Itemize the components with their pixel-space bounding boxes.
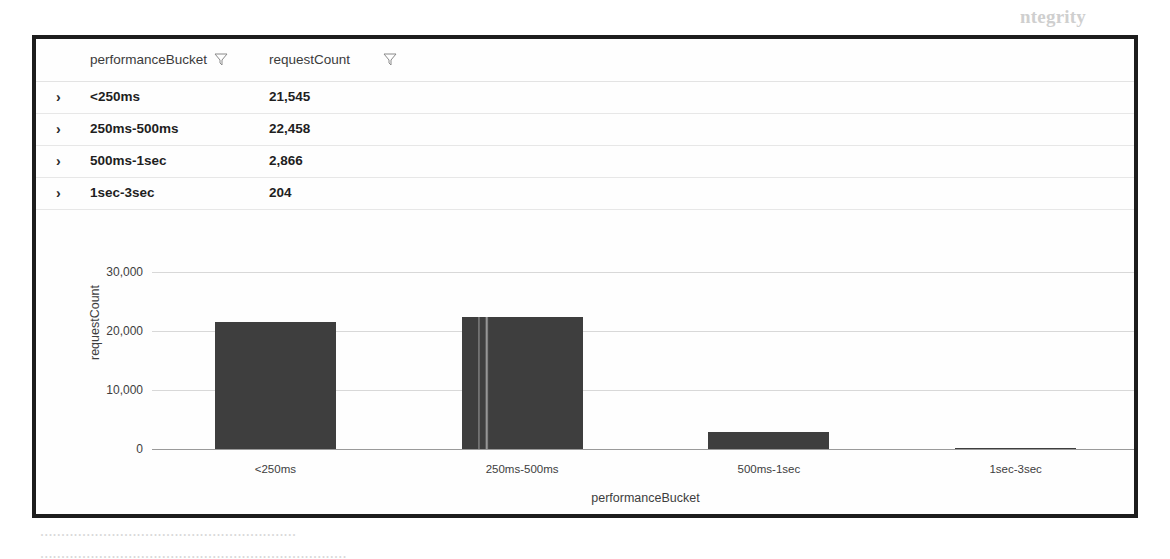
y-gridline: 0 bbox=[152, 449, 1134, 450]
y-axis-title: requestCount bbox=[88, 285, 102, 360]
results-table: performanceBucket requestCount › <250ms … bbox=[36, 39, 1134, 244]
figure-frame: performanceBucket requestCount › <250ms … bbox=[32, 35, 1138, 518]
cell-requestcount: 21,545 bbox=[269, 89, 310, 104]
cell-performancebucket: 250ms-500ms bbox=[90, 121, 179, 136]
cell-requestcount: 22,458 bbox=[269, 121, 310, 136]
background-page-footer-line: ........................................… bbox=[40, 522, 296, 540]
x-axis-tick-label: 500ms-1sec bbox=[738, 463, 801, 475]
cell-performancebucket: <250ms bbox=[90, 89, 140, 104]
x-axis-title: performanceBucket bbox=[152, 491, 1134, 505]
plot-area: 010,00020,00030,000<250ms250ms-500ms500m… bbox=[152, 272, 1134, 449]
cell-requestcount: 204 bbox=[269, 185, 292, 200]
y-axis-tick-label: 0 bbox=[136, 442, 143, 456]
table-row[interactable]: › 250ms-500ms 22,458 bbox=[36, 114, 1134, 146]
expand-row-chevron-icon[interactable]: › bbox=[56, 152, 61, 170]
y-axis-tick-label: 10,000 bbox=[106, 383, 143, 397]
x-axis-tick-label: 250ms-500ms bbox=[486, 463, 559, 475]
background-page-heading: ntegrity bbox=[1020, 6, 1086, 28]
background-page-footer-line: ........................................… bbox=[40, 544, 347, 559]
filter-funnel-icon[interactable] bbox=[383, 53, 397, 66]
table-header-row: performanceBucket requestCount bbox=[36, 39, 1134, 82]
bar[interactable] bbox=[462, 317, 583, 450]
filter-funnel-icon[interactable] bbox=[214, 53, 228, 66]
figure-inner: performanceBucket requestCount › <250ms … bbox=[36, 39, 1134, 514]
table-row[interactable]: › 1sec-3sec 204 bbox=[36, 178, 1134, 210]
expand-row-chevron-icon[interactable]: › bbox=[56, 120, 61, 138]
bar[interactable] bbox=[955, 448, 1076, 449]
expand-row-chevron-icon[interactable]: › bbox=[56, 184, 61, 202]
cell-requestcount: 2,866 bbox=[269, 153, 303, 168]
expand-row-chevron-icon[interactable]: › bbox=[56, 88, 61, 106]
y-axis-tick-label: 30,000 bbox=[106, 265, 143, 279]
x-axis-tick-label: 1sec-3sec bbox=[989, 463, 1041, 475]
column-header-requestcount[interactable]: requestCount bbox=[269, 52, 350, 67]
cell-performancebucket: 1sec-3sec bbox=[90, 185, 155, 200]
cell-performancebucket: 500ms-1sec bbox=[90, 153, 167, 168]
bar[interactable] bbox=[215, 322, 336, 449]
bar-chart: requestCount 010,00020,00030,000<250ms25… bbox=[36, 244, 1134, 514]
x-axis-tick-label: <250ms bbox=[255, 463, 296, 475]
bar[interactable] bbox=[708, 432, 829, 449]
table-row[interactable]: › 500ms-1sec 2,866 bbox=[36, 146, 1134, 178]
bar-scan-artifact bbox=[462, 317, 583, 450]
y-gridline: 30,000 bbox=[152, 272, 1134, 273]
table-row[interactable]: › <250ms 21,545 bbox=[36, 82, 1134, 114]
column-header-performancebucket[interactable]: performanceBucket bbox=[90, 52, 207, 67]
y-axis-tick-label: 20,000 bbox=[106, 324, 143, 338]
